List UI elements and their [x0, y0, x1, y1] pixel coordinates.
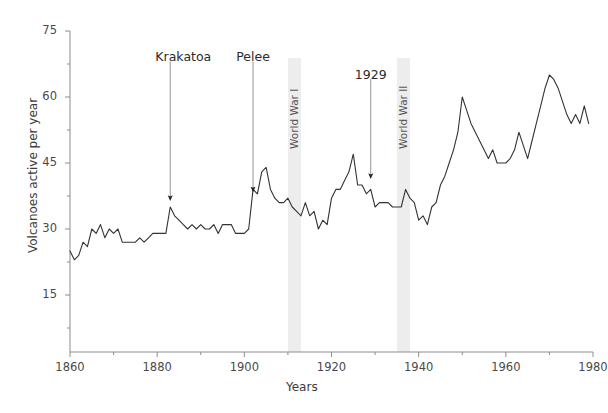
chart-axes: [65, 31, 593, 357]
x-tick-label-1940: 1940: [404, 360, 433, 374]
y-tick-label-75: 75: [42, 23, 57, 37]
x-tick-label-1860: 1860: [55, 360, 84, 374]
x-tick-label-1960: 1960: [491, 360, 520, 374]
band-label-world-war-ii: World War II: [397, 86, 409, 149]
x-axis-title: Years: [286, 380, 318, 394]
x-tick-label-1920: 1920: [317, 360, 346, 374]
annotation-pelee: Pelee: [236, 49, 270, 64]
y-tick-label-60: 60: [42, 89, 57, 103]
x-tick-label-1880: 1880: [143, 360, 172, 374]
band-label-world-war-i: World War I: [288, 89, 300, 149]
y-axis-title: Volcanoes active per year: [26, 98, 40, 253]
annotation-krakatoa: Krakatoa: [155, 49, 211, 64]
annotation-arrows: [170, 61, 370, 198]
y-tick-label-30: 30: [42, 221, 57, 235]
x-tick-label-1900: 1900: [230, 360, 259, 374]
x-tick-label-1980: 1980: [578, 360, 607, 374]
volcano-line-series: [70, 75, 589, 260]
y-tick-label-45: 45: [42, 155, 57, 169]
annotation-1929: 1929: [355, 67, 387, 82]
y-tick-label-15: 15: [42, 287, 57, 301]
